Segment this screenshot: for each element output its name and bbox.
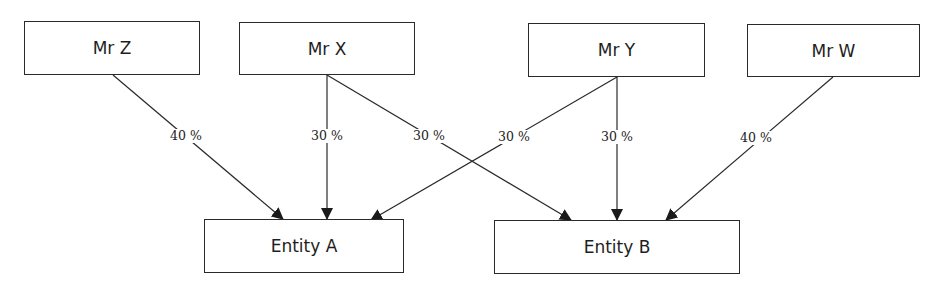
owner-box-mr-z: Mr Z [24,21,200,75]
entity-label-a: Entity A [271,236,338,256]
owner-box-mr-w: Mr W [747,24,920,77]
owner-label-mr-z: Mr Z [93,38,132,58]
owner-box-mr-y: Mr Y [528,23,705,77]
edge-label-x-to-a: 30 % [309,129,345,143]
edge-label-z-to-a: 40 % [168,129,204,143]
ownership-diagram: Mr Z Mr X Mr Y Mr W Entity A Entity B 40… [0,0,940,288]
edge-label-y-to-a: 30 % [496,130,532,144]
entity-box-b: Entity B [494,220,740,274]
edge-arrow-mr_z-to-entity_a [113,75,283,219]
entity-box-a: Entity A [204,219,404,273]
edge-label-x-to-b: 30 % [411,129,447,143]
edge-arrow-mr_w-to-entity_b [666,77,833,220]
edge-arrow-mr_y-to-entity_a [371,77,617,220]
edge-label-w-to-b: 40 % [738,131,774,145]
owner-box-mr-x: Mr X [239,22,415,75]
owner-label-mr-x: Mr X [308,39,347,59]
edge-label-y-to-b: 30 % [599,130,635,144]
owner-label-mr-w: Mr W [812,41,856,61]
edge-arrow-mr_x-to-entity_b [327,75,571,220]
entity-label-b: Entity B [584,237,651,257]
owner-label-mr-y: Mr Y [598,40,635,60]
